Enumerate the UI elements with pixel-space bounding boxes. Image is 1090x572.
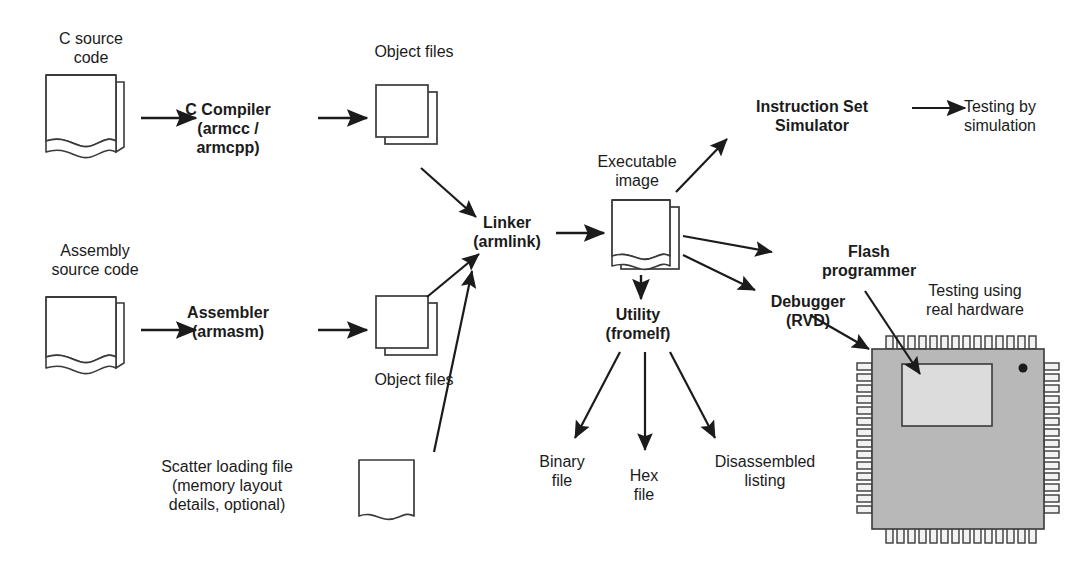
scatter-file-icon	[359, 460, 414, 519]
label-object-files-bottom: Object files	[314, 370, 514, 389]
chip-pins-right	[1044, 363, 1059, 513]
label-assembler: Assembler (armasm)	[143, 303, 313, 341]
object-files-bottom-icon	[376, 296, 437, 355]
label-debugger: Debugger (RVD)	[728, 292, 888, 330]
chip-flash-block	[902, 364, 992, 426]
label-utility: Utility (fromelf)	[543, 305, 733, 343]
c-source-file-icon	[46, 75, 124, 158]
executable-image-file-icon	[612, 200, 679, 269]
chip-pins-left	[857, 363, 872, 513]
diagram-canvas: C source code .c .cpp C Compiler (armcc …	[0, 0, 1090, 572]
arrow-executable-to-flash-programmer	[683, 236, 772, 252]
label-executable-image: Executable image	[547, 152, 727, 190]
label-disassembled-listing: Disassembled listing	[665, 452, 865, 490]
arrow-scatter-to-linker	[434, 271, 472, 452]
assembly-source-file-icon	[46, 297, 124, 374]
microcontroller-chip	[857, 336, 1059, 543]
object-files-top-icon	[376, 85, 437, 144]
chip-pins-top	[886, 336, 1036, 349]
label-scatter-loading-file: Scatter loading file (memory layout deta…	[97, 457, 357, 514]
label-testing-real-hardware: Testing using real hardware	[865, 281, 1085, 319]
arrow-utility-to-disassembled-listing	[670, 352, 715, 438]
label-flash-programmer: Flash programmer	[769, 242, 969, 280]
arrow-executable-to-debugger	[683, 255, 755, 290]
label-testing-by-simulation: Testing by simulation	[910, 97, 1090, 135]
arrow-objects-top-to-linker	[421, 168, 476, 217]
chip-pins-bottom	[886, 528, 1036, 543]
chip-pin1-dot	[1019, 364, 1028, 373]
label-c-source-code: C source code	[11, 29, 171, 67]
arrow-utility-to-binary-file	[575, 352, 620, 438]
label-assembly-source-code: Assembly source code	[0, 241, 195, 279]
label-c-compiler: C Compiler (armcc / armcpp)	[143, 100, 313, 157]
label-instruction-set-simulator: Instruction Set Simulator	[697, 97, 927, 135]
label-object-files-top: Object files	[314, 42, 514, 61]
